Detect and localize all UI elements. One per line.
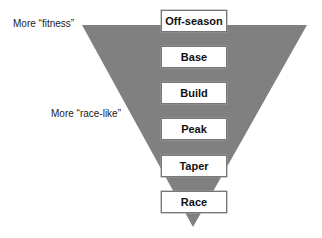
phase-race: Race [161,191,227,213]
label-more-fitness: More “fitness” [13,18,74,29]
phase-taper: Taper [161,155,227,177]
phase-off-season: Off-season [161,10,227,32]
phase-peak: Peak [161,118,227,140]
label-more-race-like: More “race-like” [51,108,121,119]
phase-build: Build [161,82,227,104]
phase-base: Base [161,46,227,68]
